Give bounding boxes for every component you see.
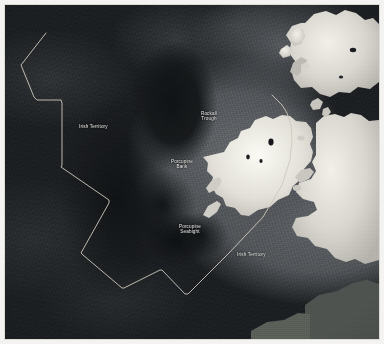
satellite-map-figure: Irish Territory Rockall Trough Porcupine… xyxy=(0,0,384,344)
irish-territory-boundary-path xyxy=(21,33,292,294)
irish-territory-boundary xyxy=(5,5,379,339)
satellite-raster-image: Irish Territory Rockall Trough Porcupine… xyxy=(5,5,379,339)
map-frame: Irish Territory Rockall Trough Porcupine… xyxy=(5,5,379,339)
